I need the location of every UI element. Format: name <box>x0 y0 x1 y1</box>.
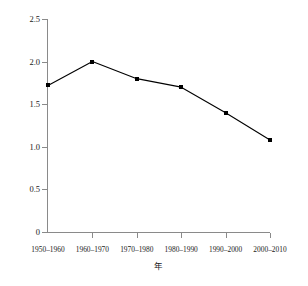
chart-figure: 00.51.01.52.02.5 1950–19601960–19701970–… <box>0 0 308 286</box>
data-point <box>135 77 139 81</box>
series-line <box>0 0 308 286</box>
data-point <box>46 83 50 87</box>
x-axis-title: 年 <box>47 261 270 271</box>
data-point <box>224 111 228 115</box>
data-point <box>268 138 272 142</box>
data-point <box>179 85 183 89</box>
data-point <box>90 60 94 64</box>
